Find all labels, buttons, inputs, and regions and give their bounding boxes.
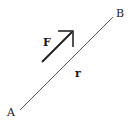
force-label-f: F — [43, 37, 51, 48]
displacement-label-r: r — [75, 68, 81, 79]
point-label-a: A — [7, 107, 15, 118]
vector-diagram — [0, 0, 133, 122]
point-label-b: B — [116, 8, 124, 19]
